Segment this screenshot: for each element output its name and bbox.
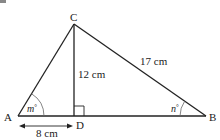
arrow-left-icon <box>19 124 25 129</box>
arrow-right-icon <box>67 124 73 129</box>
triangle-diagram: C A D B 12 cm 17 cm 8 cm m° n° <box>0 0 220 140</box>
vertex-label-c: C <box>70 11 77 23</box>
vertex-label-b: B <box>209 111 216 123</box>
right-angle-marker <box>74 106 84 116</box>
angle-label-m: m° <box>27 103 37 114</box>
angle-arc-b <box>180 101 185 116</box>
vertex-label-a: A <box>4 111 12 123</box>
measure-ad: 8 cm <box>36 127 58 139</box>
stray-mark <box>0 0 6 3</box>
measure-cb: 17 cm <box>140 55 168 67</box>
vertex-label-d: D <box>76 119 84 131</box>
measure-cd: 12 cm <box>78 68 106 80</box>
angle-label-n: n° <box>171 103 179 114</box>
